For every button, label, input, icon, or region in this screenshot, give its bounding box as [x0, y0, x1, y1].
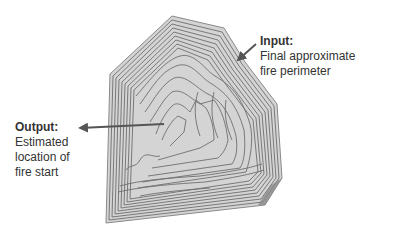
input-desc-line-1: Final approximate — [260, 49, 355, 64]
output-desc-line-2: location of — [15, 150, 70, 165]
output-desc-line-1: Estimated — [15, 135, 70, 150]
output-desc-line-3: fire start — [15, 165, 70, 180]
input-title: Input: — [260, 34, 355, 49]
fire-perimeter-polygon — [106, 16, 282, 223]
input-label: Input: Final approximate fire perimeter — [260, 34, 355, 79]
output-label: Output: Estimated location of fire start — [15, 120, 70, 180]
input-arrow — [238, 44, 256, 60]
output-title: Output: — [15, 120, 70, 135]
input-desc-line-2: fire perimeter — [260, 64, 355, 79]
